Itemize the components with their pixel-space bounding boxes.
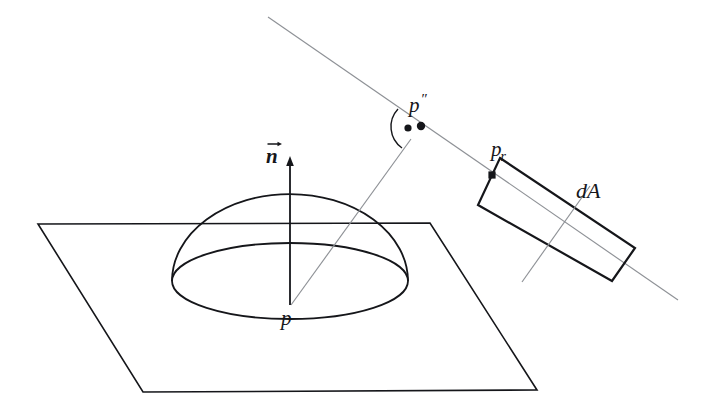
figure-canvas: n p p″ pr dA: [0, 0, 706, 414]
incident-ray: [291, 139, 411, 305]
direction-line: [268, 17, 678, 300]
point-p-double-prime: [417, 122, 425, 130]
hemisphere-point-primes: ″: [421, 91, 428, 107]
normal-vector-glyph: n: [266, 146, 278, 167]
receiver-point-glyph: p: [491, 137, 502, 161]
angle-arc: [391, 109, 402, 148]
hemisphere-point-glyph: p: [409, 93, 420, 117]
hemisphere-point-label: p″: [409, 92, 427, 116]
differential-area-label: dA: [576, 180, 600, 202]
point-p-r: [488, 171, 495, 178]
differential-area-patch: [478, 158, 635, 281]
receiver-point-label: pr: [491, 139, 506, 164]
angle-dot: [404, 124, 411, 131]
normal-vector-label: n: [266, 141, 278, 167]
surface-point-label: p: [281, 308, 292, 329]
vector-arrow-icon: [267, 140, 282, 147]
diagram-svg: [0, 0, 706, 414]
receiver-point-subscript: r: [501, 149, 506, 164]
normal-arrowhead: [286, 156, 294, 166]
